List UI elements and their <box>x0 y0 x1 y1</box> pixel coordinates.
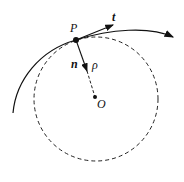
radius-line <box>87 71 95 97</box>
label-radius: ρ <box>92 59 98 71</box>
point-P <box>73 37 79 43</box>
osculating-circle <box>34 37 158 161</box>
osculating-circle-diagram <box>0 0 184 182</box>
label-normal: n <box>71 58 78 70</box>
label-center-O: O <box>97 98 106 110</box>
label-tangent: t <box>112 11 115 23</box>
label-point-P: P <box>70 22 77 34</box>
